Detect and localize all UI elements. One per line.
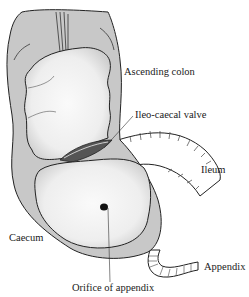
- label-orifice-of-appendix: Orifice of appendix: [72, 283, 154, 294]
- label-ileum: Ileum: [201, 165, 226, 176]
- label-appendix: Appendix: [204, 262, 245, 273]
- appendix-shape: [148, 250, 198, 277]
- label-ileo-caecal-valve: Ileo-caecal valve: [135, 110, 206, 121]
- label-caecum: Caecum: [9, 233, 43, 244]
- caecum-diagram: [0, 0, 249, 297]
- orifice-of-appendix-mark: [100, 204, 108, 211]
- label-ascending-colon: Ascending colon: [124, 67, 195, 78]
